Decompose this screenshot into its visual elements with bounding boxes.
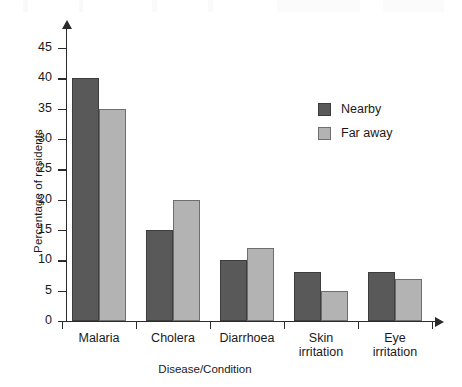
y-axis-tick-label: 40: [0, 70, 52, 84]
y-axis-tick: [58, 48, 66, 49]
bar-chart: Percentage of residents 0510152025303540…: [0, 0, 462, 387]
y-axis-tick: [58, 78, 66, 79]
legend: Nearby Far away: [318, 102, 392, 150]
x-axis-tick: [432, 321, 433, 329]
bar-malaria-nearby: [72, 78, 99, 321]
x-axis-tick: [358, 321, 359, 329]
y-axis-tick: [58, 291, 66, 292]
legend-label-nearby: Nearby: [341, 102, 381, 116]
x-axis-tick: [210, 321, 211, 329]
plot-area: [66, 22, 444, 321]
y-axis-tick-label: 10: [0, 252, 52, 266]
y-axis-tick-label: 0: [0, 313, 52, 327]
y-axis-tick-label: 5: [0, 283, 52, 297]
x-axis-title-text: Disease/Condition: [158, 363, 251, 375]
y-axis-tick-label: 45: [0, 40, 52, 54]
y-axis-tick-label: 25: [0, 161, 52, 175]
y-axis-tick-label: 20: [0, 192, 52, 206]
bar-eye-irritation-far-away: [395, 279, 422, 321]
y-axis-tick: [58, 109, 66, 110]
bar-cholera-nearby: [146, 230, 173, 321]
y-axis-tick-label: 30: [0, 131, 52, 145]
legend-item-far-away[interactable]: Far away: [318, 126, 392, 140]
legend-label-far-away: Far away: [341, 126, 392, 140]
x-axis-tick: [62, 321, 63, 329]
bar-malaria-far-away: [99, 109, 126, 321]
y-axis-tick-label: 15: [0, 222, 52, 236]
y-axis-tick: [58, 200, 66, 201]
x-axis-category-label-line: irritation: [352, 345, 438, 359]
x-axis-category-label: Eyeirritation: [352, 331, 438, 359]
legend-item-nearby[interactable]: Nearby: [318, 102, 392, 116]
bar-skin-irritation-far-away: [321, 291, 348, 321]
y-axis-tick: [58, 260, 66, 261]
bar-cholera-far-away: [173, 200, 200, 321]
y-axis-tick: [58, 139, 66, 140]
y-axis-tick: [58, 169, 66, 170]
scan-artifact: [0, 0, 462, 12]
x-axis-tick: [284, 321, 285, 329]
bar-diarrhoea-far-away: [247, 248, 274, 321]
x-axis-category-label-line: Eye: [352, 331, 438, 345]
x-axis-tick: [136, 321, 137, 329]
faraway-swatch-icon: [318, 127, 331, 140]
y-axis-tick: [58, 230, 66, 231]
y-axis-tick-label: 35: [0, 101, 52, 115]
bar-skin-irritation-nearby: [294, 272, 321, 321]
nearby-swatch-icon: [318, 103, 331, 116]
bar-eye-irritation-nearby: [368, 272, 395, 321]
bar-diarrhoea-nearby: [220, 260, 247, 321]
x-axis-title: Disease/Condition: [0, 363, 462, 375]
